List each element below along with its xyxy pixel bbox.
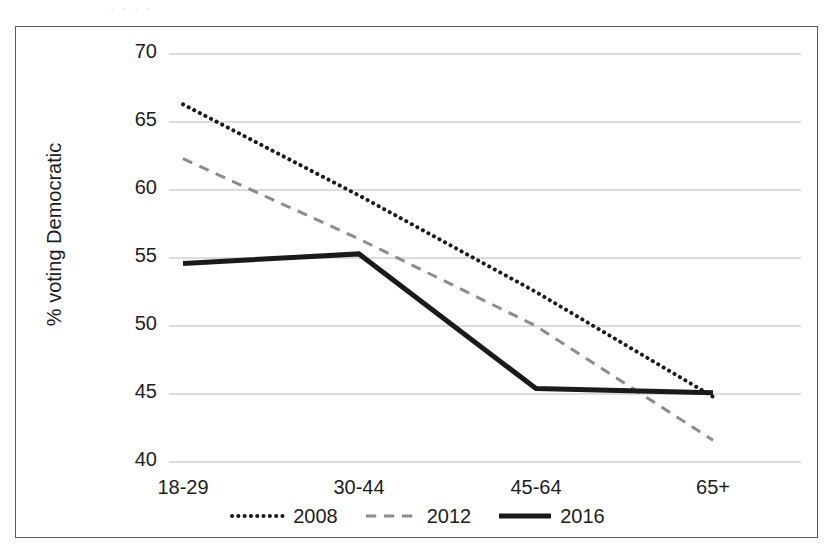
legend-item-2012[interactable]: 2012 (364, 505, 472, 528)
y-tick-label: 60 (111, 176, 157, 199)
series-line-2008 (183, 104, 713, 396)
y-tick-label: 65 (111, 108, 157, 131)
legend-label: 2012 (427, 505, 472, 528)
legend-item-2008[interactable]: 2008 (230, 505, 338, 528)
x-tick-label: 45-64 (476, 476, 596, 499)
y-tick-label: 55 (111, 244, 157, 267)
legend-item-2016[interactable]: 2016 (497, 505, 605, 528)
y-tick-label: 40 (111, 448, 157, 471)
legend-label: 2008 (293, 505, 338, 528)
chart-plot-area: % voting Democratic 70656055504540 18-29… (16, 27, 819, 539)
x-tick-label: 30-44 (299, 476, 419, 499)
chart-legend: 200820122016 (16, 499, 819, 533)
legend-label: 2016 (560, 505, 605, 528)
legend-swatch-2008 (230, 509, 286, 523)
y-tick-label: 50 (111, 312, 157, 335)
x-tick-label: 18-29 (123, 476, 243, 499)
y-axis-title: % voting Democratic (43, 105, 66, 365)
scan-artifact-text: · · · · (0, 0, 834, 20)
y-tick-label: 70 (111, 40, 157, 63)
chart-figure-frame: % voting Democratic 70656055504540 18-29… (15, 26, 818, 538)
x-tick-label: 65+ (653, 476, 773, 499)
y-tick-label: 45 (111, 380, 157, 403)
series-line-2016 (183, 254, 713, 393)
series-line-2012 (183, 159, 713, 441)
legend-swatch-2016 (497, 509, 553, 523)
legend-swatch-2012 (364, 509, 420, 523)
